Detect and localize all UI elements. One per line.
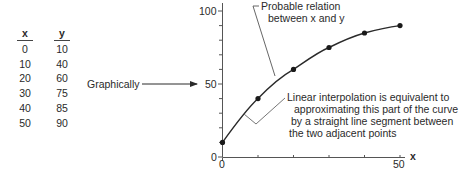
interp-label-line2: approximating this part of the curve <box>294 103 458 116</box>
x-tick-50: 50 <box>393 158 405 169</box>
x-axis-label: x <box>410 150 416 163</box>
y-tick-0: 0 <box>211 151 217 164</box>
interp-label-line3: by a straight line segment between <box>291 115 453 128</box>
x-tick-0: 0 <box>219 158 225 169</box>
x-axis <box>223 155 406 161</box>
y-tick-100: 100 <box>199 5 217 18</box>
curve-label-line1: Probable relation <box>261 0 340 13</box>
curve-label-line2: between x and y <box>268 12 344 25</box>
interp-bracket-leader <box>244 98 285 124</box>
interp-label-line4: the two adjacent points <box>289 127 396 140</box>
y-tick-50: 50 <box>205 78 217 91</box>
y-axis <box>218 3 223 157</box>
chart-canvas <box>0 0 464 169</box>
interp-label-line1: Linear interpolation is equivalent to <box>287 91 449 104</box>
